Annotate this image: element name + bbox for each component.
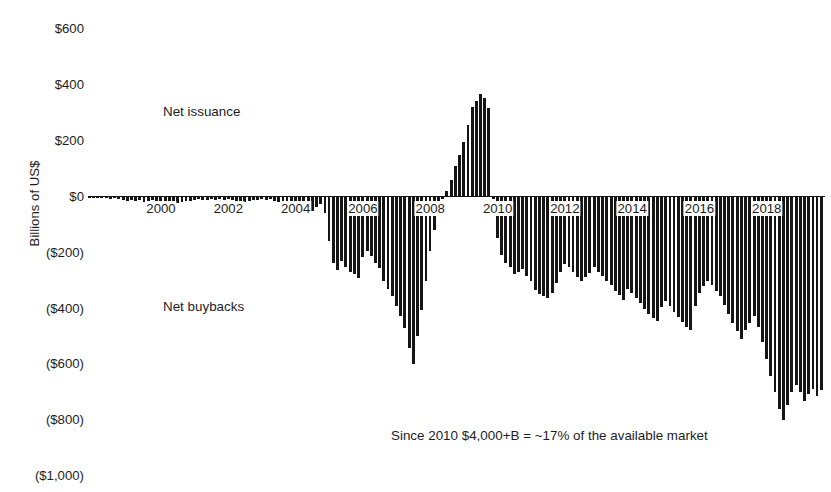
bar [227,197,230,200]
bar [462,142,465,197]
x-axis-tick-label: 2004 [280,201,311,216]
bar [117,197,120,200]
plot-area [88,14,825,480]
y-axis-tick-label: $200 [0,133,84,148]
bar [803,197,806,401]
bar [467,125,470,197]
bar [105,197,108,198]
bar [109,197,112,199]
y-axis-tick-label: $400 [0,77,84,92]
bar [778,197,781,410]
bar [471,107,474,197]
annotation-net-buybacks: Net buybacks [163,299,244,314]
bar [799,197,802,393]
chart-figure: $600$400$200$0($200)($400)($600)($800)($… [0,0,831,492]
bar [269,197,272,200]
bar [210,197,213,200]
bar [256,197,259,200]
bar [774,197,777,393]
x-axis-tick-label: 2016 [684,201,715,216]
y-axis-tick-label: $0 [0,189,84,204]
x-axis: 2000200220042006200820102012201420162018 [88,201,825,223]
y-axis-title: Billions of US$ [27,84,42,324]
bar [265,197,268,200]
y-axis-tick-label: ($200) [0,245,84,260]
bar [218,197,221,200]
annotation-net-issuance: Net issuance [163,104,240,119]
bar [445,191,448,197]
bar [790,197,793,393]
bar [812,197,815,389]
bar [214,197,217,200]
x-axis-tick-label: 2018 [751,201,782,216]
bar [786,197,789,405]
x-axis-tick-label: 2014 [616,201,647,216]
bar [130,197,133,200]
bar [795,197,798,385]
y-axis-tick-label: ($600) [0,356,84,371]
bar [492,197,495,199]
x-axis-tick-label: 2002 [213,201,244,216]
bar [96,197,99,198]
x-axis-tick-label: 2006 [347,201,378,216]
bar [458,155,461,196]
bar [151,197,154,200]
bar [807,197,810,394]
bar [260,197,263,200]
bar [479,94,482,197]
y-axis-tick-label: ($800) [0,412,84,427]
bar [475,101,478,197]
x-axis-tick-label: 2012 [549,201,580,216]
bar [113,197,116,199]
bar [454,166,457,196]
bar [92,197,95,198]
bar [816,197,819,396]
bar [223,197,226,200]
y-axis-tick-label: ($400) [0,301,84,316]
bar [122,197,125,200]
x-axis-tick-label: 2000 [145,201,176,216]
bar [197,197,200,200]
bar [769,197,772,376]
bar [483,98,486,196]
bar [88,197,91,198]
x-axis-tick-label: 2010 [482,201,513,216]
y-axis-tick-label: ($1,000) [0,468,84,483]
annotation-footnote: Since 2010 $4,000+B = ~17% of the availa… [391,428,708,443]
bar [782,197,785,421]
bar [206,197,209,200]
bar [441,197,444,200]
y-axis-tick-label: $600 [0,21,84,36]
x-axis-tick-label: 2008 [415,201,446,216]
bar [193,197,196,200]
bar [450,180,453,196]
bar-series [88,14,825,480]
y-axis: $600$400$200$0($200)($400)($600)($800)($… [0,0,84,492]
bar [100,197,103,199]
bar [487,108,490,197]
bar [820,197,823,390]
